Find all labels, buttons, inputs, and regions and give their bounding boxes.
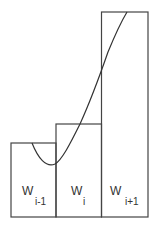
bin-subscript-i: i [83, 197, 85, 207]
bin-subscript-i-minus-1: i-1 [35, 197, 46, 207]
bin-label-i-plus-1: W [110, 185, 121, 197]
bin-rect-i-minus-1 [11, 143, 56, 217]
density-curve [32, 12, 127, 165]
bin-label-i-minus-1: W [22, 185, 33, 197]
bin-subscript-i-plus-1: i+1 [125, 197, 139, 207]
bin-rect-i-plus-1 [102, 12, 149, 217]
bin-label-i: W [71, 185, 82, 197]
bin-rect-i [56, 124, 102, 217]
